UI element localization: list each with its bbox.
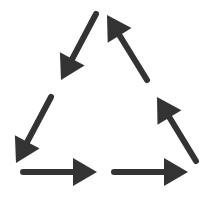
arrow-shaft <box>26 97 51 144</box>
arrow-head <box>73 158 97 186</box>
arrow-left-lower-icon <box>15 97 51 163</box>
cycle-diagram <box>0 0 212 204</box>
arrow-left-upper-icon <box>60 14 96 80</box>
arrow-bottom-right-icon <box>114 158 188 186</box>
arrow-right-lower-icon <box>157 97 196 161</box>
arrow-shaft <box>119 34 147 80</box>
arrow-right-upper-icon <box>107 15 147 80</box>
arrow-bottom-left-icon <box>23 158 97 186</box>
arrow-head <box>164 158 188 186</box>
arrow-shaft <box>168 116 196 161</box>
arrow-shaft <box>71 14 96 61</box>
arrow-group <box>15 14 196 186</box>
